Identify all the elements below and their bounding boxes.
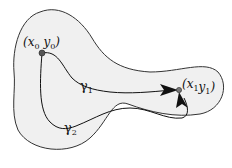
- point-start: [39, 50, 45, 56]
- diagram-svg: (x0 y0) (x1y1) γ1 γ2: [0, 0, 232, 168]
- label-start-point: (x0 y0): [23, 35, 60, 51]
- diagram-canvas: (x0 y0) (x1y1) γ1 γ2: [0, 0, 232, 168]
- point-end: [176, 87, 181, 92]
